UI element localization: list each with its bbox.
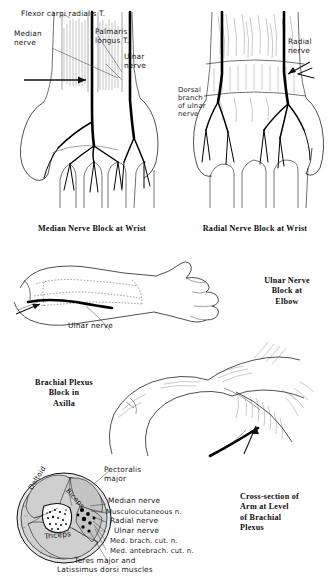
caption-radial-nerve-block-wrist: Radial Nerve Block at Wrist <box>180 224 330 234</box>
label-ulnar-nerve-elbow: Ulnar nerve <box>68 322 113 331</box>
label-ulnar-nerve-xs: Ulnar nerve <box>114 527 159 536</box>
figure-brachial-plexus-block-axilla <box>104 338 332 458</box>
label-musculocutaneous-nerve: Musculocutaneous n. <box>106 508 182 516</box>
label-ulnar-nerve: Ulnar nerve <box>124 53 146 70</box>
caption-cross-section-arm: Cross-section of Arm at Level of Brachia… <box>240 492 332 534</box>
label-medial-brachial-cutaneous-nerve: Med. brach. cut. n. <box>110 537 178 545</box>
label-median-nerve: Median nerve <box>14 30 42 47</box>
label-median-nerve-xs: Median nerve <box>108 497 160 506</box>
label-radial-nerve: Radial nerve <box>288 38 312 55</box>
caption-median-nerve-block-wrist: Median Nerve Block at Wrist <box>14 224 170 234</box>
figure-ulnar-nerve-block-elbow <box>14 258 236 334</box>
label-pectoralis-major: Pectoralis major <box>104 466 141 483</box>
label-teres-major-latissimus: Teres major and Latissimus dorsi muscles <box>57 557 153 574</box>
label-palmaris-longus: Palmaris longus T. <box>95 28 129 45</box>
label-dorsal-branch-ulnar-nerve: Dorsal branch of ulnar nerve <box>178 86 206 118</box>
label-radial-nerve-xs: Radial nerve <box>110 517 158 526</box>
caption-brachial-plexus-block-axilla: Brachial Plexus Block in Axilla <box>14 378 114 409</box>
label-medial-antebrachial-cutaneous-nerve: Med. antebrach. cut. n. <box>110 547 194 555</box>
label-flexor-carpi-radialis: Flexor carpi radialis T. <box>21 10 105 19</box>
caption-ulnar-nerve-block-elbow: Ulnar Nerve Block at Elbow <box>244 276 330 307</box>
